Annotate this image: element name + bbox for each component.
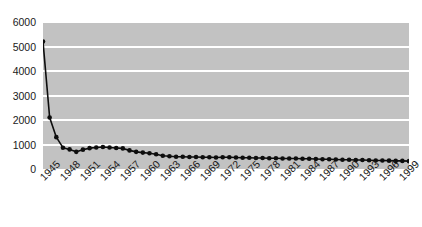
data-series	[43, 22, 409, 169]
y-axis-tick-label: 3000	[13, 90, 36, 101]
y-axis-tick-label: 2000	[13, 115, 36, 126]
data-point-marker	[300, 156, 305, 161]
data-point-marker	[340, 157, 345, 162]
x-axis-tick-label: 1945	[38, 158, 62, 182]
data-point-marker	[260, 156, 265, 161]
y-axis-tick-label: 1000	[13, 139, 36, 150]
data-point-marker	[107, 145, 112, 150]
data-point-marker	[154, 152, 159, 157]
data-point-marker	[127, 148, 132, 153]
data-point-marker	[180, 154, 185, 159]
series-line	[43, 42, 409, 162]
data-point-marker	[200, 155, 205, 160]
data-point-marker	[54, 135, 59, 140]
x-axis: 1945194819511954195719601963196619691972…	[0, 169, 418, 227]
data-point-marker	[240, 155, 245, 160]
data-point-marker	[114, 146, 119, 151]
y-axis-tick-label: 5000	[13, 41, 36, 52]
data-point-marker	[101, 145, 106, 150]
data-point-marker	[360, 158, 365, 163]
data-point-marker	[74, 150, 79, 155]
data-point-marker	[220, 155, 225, 160]
data-point-marker	[167, 154, 172, 159]
data-point-marker	[320, 157, 325, 162]
data-point-marker	[121, 146, 126, 151]
data-point-marker	[160, 153, 165, 158]
data-point-marker	[67, 147, 72, 152]
data-point-marker	[94, 145, 99, 150]
y-axis: 0100020003000400050006000	[0, 0, 40, 180]
data-point-marker	[280, 156, 285, 161]
plot-area	[43, 22, 409, 169]
data-point-marker	[147, 151, 152, 156]
data-point-marker	[61, 145, 66, 150]
data-point-marker	[380, 158, 385, 163]
data-point-marker	[81, 147, 86, 152]
y-axis-tick-label: 6000	[13, 17, 36, 28]
data-point-marker	[400, 159, 405, 164]
data-point-marker	[87, 146, 92, 151]
data-point-marker	[141, 150, 146, 155]
data-point-marker	[47, 115, 52, 120]
y-axis-tick-label: 4000	[13, 66, 36, 77]
data-point-marker	[43, 39, 45, 44]
data-point-marker	[134, 150, 139, 155]
